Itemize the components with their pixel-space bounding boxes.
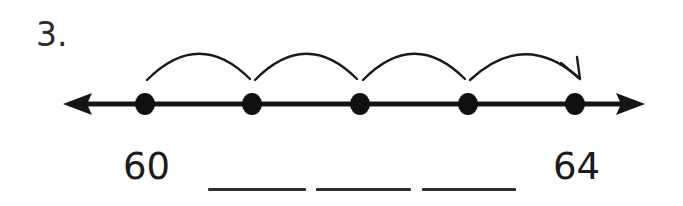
- number-line-point-2: [350, 93, 370, 115]
- number-line-end-label: 64: [553, 148, 600, 185]
- jump-arc-1: [147, 54, 250, 80]
- number-line-point-4: [565, 93, 585, 115]
- answer-row: 60 64: [0, 142, 683, 198]
- number-line-start-label: 60: [123, 148, 170, 185]
- answer-blank-3[interactable]: [422, 188, 516, 191]
- number-line-point-0: [135, 93, 155, 115]
- number-line-point-3: [458, 93, 478, 115]
- jump-arrowhead-icon: [561, 57, 580, 79]
- worksheet-problem: 3. 60 64: [0, 0, 683, 206]
- answer-blank-2[interactable]: [316, 188, 411, 191]
- number-line-point-1: [242, 93, 262, 115]
- jump-arc-3: [363, 54, 465, 80]
- answer-blank-1[interactable]: [208, 188, 306, 191]
- jump-arc-4: [470, 54, 578, 80]
- jump-arc-2: [255, 54, 357, 80]
